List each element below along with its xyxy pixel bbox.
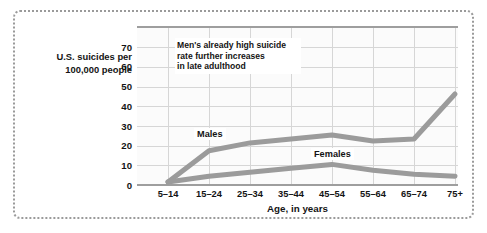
- chart-figure: U.S. suicides per 100,000 people 70 60 5…: [0, 0, 487, 233]
- x-tick-label-65-74: 65–74: [391, 189, 437, 200]
- y-tick-label-30: 30: [106, 122, 132, 132]
- y-tick-label-20: 20: [106, 141, 132, 151]
- annotation-line-1: Men's already high suicide: [177, 40, 298, 51]
- x-tick-label-75plus: 75+: [432, 189, 478, 200]
- y-tick-label-10: 10: [106, 161, 132, 171]
- series-line-females: [168, 164, 455, 182]
- annotation-line-2: rate further increases: [177, 51, 298, 62]
- x-tick-label-35-44: 35–44: [268, 189, 314, 200]
- series-label-females: Females: [311, 148, 354, 160]
- x-axis-title: Age, in years: [137, 203, 458, 214]
- x-tick-label-5-14: 5–14: [145, 189, 191, 200]
- series-label-males: Males: [194, 128, 226, 140]
- y-tick-label-0: 0: [106, 181, 132, 191]
- y-tick-label-70: 70: [106, 43, 132, 53]
- annotation-men-late-adulthood: Men's already high suicide rate further …: [175, 38, 301, 74]
- x-tick-label-45-54: 45–54: [309, 189, 355, 200]
- annotation-line-3: in late adulthood: [177, 61, 298, 72]
- y-tick-label-50: 50: [106, 82, 132, 92]
- x-tick-label-15-24: 15–24: [186, 189, 232, 200]
- y-tick-label-60: 60: [106, 62, 132, 72]
- y-tick-label-40: 40: [106, 102, 132, 112]
- x-tick-label-55-64: 55–64: [350, 189, 396, 200]
- x-tick-label-25-34: 25–34: [227, 189, 273, 200]
